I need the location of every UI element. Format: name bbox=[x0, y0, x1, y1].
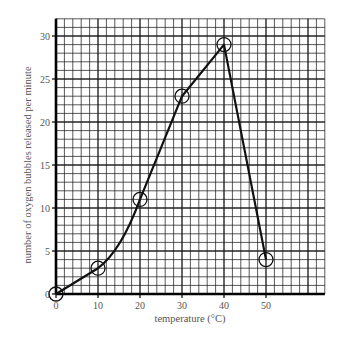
y-tick-label: 10 bbox=[40, 203, 50, 214]
grid bbox=[56, 19, 325, 294]
y-tick-label: 30 bbox=[40, 31, 50, 42]
series-line bbox=[56, 45, 266, 294]
y-axis-label: number of oxygen bubbles released per mi… bbox=[22, 66, 33, 263]
y-tick-label: 20 bbox=[40, 117, 50, 128]
x-axis-ticks: 01020304050 bbox=[54, 294, 272, 311]
x-tick-label: 50 bbox=[261, 300, 271, 311]
y-tick-label: 5 bbox=[45, 246, 50, 257]
x-axis-label: temperature (°C) bbox=[155, 313, 226, 325]
x-tick-label: 20 bbox=[135, 300, 145, 311]
data-series bbox=[49, 38, 273, 301]
x-tick-label: 30 bbox=[177, 300, 187, 311]
x-tick-label: 10 bbox=[93, 300, 103, 311]
y-tick-label: 15 bbox=[40, 160, 50, 171]
y-axis-ticks: 051015202530 bbox=[40, 31, 56, 300]
y-tick-label: 25 bbox=[40, 74, 50, 85]
x-tick-label: 40 bbox=[219, 300, 229, 311]
line-chart: 01020304050 051015202530 temperature (°C… bbox=[0, 0, 342, 341]
